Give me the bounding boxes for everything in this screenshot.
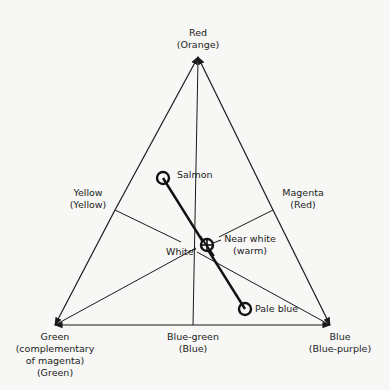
- triangle-side-left-lower: [55, 210, 115, 325]
- triangle-side-left: [115, 57, 198, 210]
- edge-label-blue-green: Blue-green(Blue): [155, 331, 231, 355]
- vertex-label-green: Green(complementaryof magenta)(Green): [13, 331, 97, 379]
- point-label-salmon: Salmon: [177, 169, 213, 181]
- point-label-pale-blue: Pale blue: [255, 303, 298, 315]
- vertex-label-blue: Blue(Blue-purple): [300, 331, 380, 355]
- vertex-label-red: Red(Orange): [168, 27, 228, 51]
- median-magenta-to-green-b: [55, 248, 196, 325]
- point-label-near-white: Near white(warm): [220, 233, 280, 257]
- median-yellow-to-blue-a: [115, 210, 181, 242]
- triangle-side-right: [198, 57, 273, 210]
- center-label-white: White: [166, 246, 194, 258]
- median-vertical: [193, 60, 198, 325]
- edge-label-magenta: Magenta(Red): [270, 187, 336, 211]
- edge-label-yellow: Yellow(Yellow): [58, 187, 118, 211]
